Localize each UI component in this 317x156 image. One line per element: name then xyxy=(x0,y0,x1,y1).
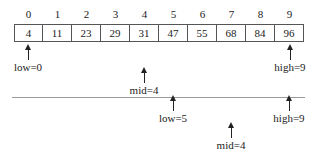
mid-pointer-step1: mid=4 xyxy=(114,69,174,96)
mid-pointer-step2: mid=4 xyxy=(201,124,261,151)
array-cell: 84 xyxy=(246,24,275,42)
index-label: 7 xyxy=(217,8,246,20)
index-label: 5 xyxy=(159,8,188,20)
up-arrow-icon xyxy=(144,69,145,83)
index-label: 4 xyxy=(130,8,159,20)
low-pointer-step2: low=5 xyxy=(143,97,203,124)
array-cell: 31 xyxy=(130,24,159,42)
index-label: 1 xyxy=(43,8,72,20)
mid-label: mid=4 xyxy=(201,139,261,151)
index-label: 0 xyxy=(14,8,43,20)
up-arrow-icon xyxy=(28,46,29,60)
index-label: 6 xyxy=(188,8,217,20)
low-label: low=0 xyxy=(0,61,58,73)
high-pointer-step2: high=9 xyxy=(259,97,317,124)
array-cell: 55 xyxy=(188,24,217,42)
array-cell: 4 xyxy=(14,24,43,42)
low-pointer-step1: low=0 xyxy=(0,46,58,73)
index-label: 3 xyxy=(101,8,130,20)
low-label: low=5 xyxy=(143,112,203,124)
mid-label: mid=4 xyxy=(114,84,174,96)
array-cell: 68 xyxy=(217,24,246,42)
high-label: high=9 xyxy=(259,112,317,124)
index-label: 8 xyxy=(246,8,275,20)
high-pointer-step1: high=9 xyxy=(260,46,317,73)
array-cell: 47 xyxy=(159,24,188,42)
array-cell: 11 xyxy=(43,24,72,42)
array-cell: 29 xyxy=(101,24,130,42)
array-cell: 23 xyxy=(72,24,101,42)
array-cell: 96 xyxy=(275,24,304,42)
high-label: high=9 xyxy=(260,61,317,73)
up-arrow-icon xyxy=(231,124,232,138)
up-arrow-icon xyxy=(173,97,174,111)
index-label: 9 xyxy=(275,8,304,20)
index-label: 2 xyxy=(72,8,101,20)
up-arrow-icon xyxy=(289,97,290,111)
up-arrow-icon xyxy=(290,46,291,60)
